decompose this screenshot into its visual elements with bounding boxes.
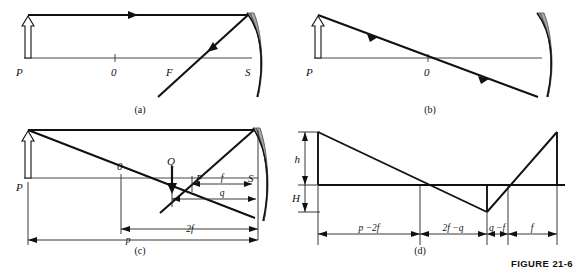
label-point-s-c: S bbox=[248, 172, 254, 184]
panel-a: P 0 F S (a) bbox=[15, 11, 262, 116]
ray-descending-d bbox=[318, 132, 487, 212]
object-arrow-b bbox=[312, 16, 324, 58]
dim-p2f-arrow-right-d bbox=[411, 231, 420, 237]
label-point-o-b: 0 bbox=[424, 66, 430, 78]
dim-p-arrow-right-c bbox=[249, 237, 258, 243]
dim-p2f-arrow-left-d bbox=[318, 231, 327, 237]
panel-b: P 0 (b) bbox=[305, 13, 552, 116]
label-point-o-a: 0 bbox=[111, 66, 117, 78]
dim-h-arrow-top-d bbox=[302, 132, 308, 141]
label-point-p-b: P bbox=[305, 66, 313, 78]
label-point-p-c: P bbox=[15, 181, 23, 193]
label-dim-p-minus-2f-d: p −2f bbox=[358, 223, 381, 233]
label-point-o-c: 0 bbox=[117, 160, 123, 172]
label-height-h-d: h bbox=[295, 153, 301, 165]
dim-q-arrow-right-c bbox=[248, 196, 256, 202]
panel-label-b: (b) bbox=[424, 104, 436, 116]
label-dim-p-c: p bbox=[125, 235, 131, 245]
ray-ascending-d bbox=[487, 132, 557, 212]
center-ray-b bbox=[318, 15, 538, 97]
dim-2fq-arrow-left-d bbox=[420, 231, 429, 237]
reflected-ray-a bbox=[158, 15, 248, 97]
figure-caption: FIGURE 21-6 bbox=[511, 258, 573, 269]
label-point-s-a: S bbox=[245, 66, 251, 78]
object-arrow-c bbox=[22, 131, 34, 178]
label-dim-f-d: f bbox=[531, 223, 535, 233]
mirror-arc-b bbox=[537, 13, 551, 97]
panel-label-c: (c) bbox=[134, 245, 145, 257]
dim-h-arrow-bottom-d bbox=[302, 176, 308, 185]
dim-2f-arrow-left-c bbox=[121, 226, 130, 232]
object-arrow-a bbox=[22, 16, 34, 58]
dim-p-arrow-left-c bbox=[28, 237, 37, 243]
mirror-arc-c bbox=[253, 128, 267, 221]
label-point-f-c: F bbox=[195, 172, 203, 184]
panel-d: h H p −2f 2f −q q −f f (d) bbox=[291, 132, 565, 257]
dim-2f-arrow-right-c bbox=[249, 226, 258, 232]
label-point-q-c: Q bbox=[167, 155, 175, 167]
label-point-f-a: F bbox=[165, 66, 173, 78]
dim-2fq-arrow-right-d bbox=[478, 231, 487, 237]
dim-H-arrow-bottom-d bbox=[302, 203, 308, 212]
incident-ray-arrowhead-a bbox=[128, 11, 138, 19]
label-point-p-a: P bbox=[15, 66, 23, 78]
label-height-H-d: H bbox=[291, 192, 301, 204]
label-dim-2f-minus-q-d: 2f −q bbox=[443, 223, 464, 233]
dim-f-arrow-left-d bbox=[508, 231, 517, 237]
panel-c: P 0 Q F S f q 2f p (c) bbox=[15, 128, 268, 257]
dim-f-arrow-right-d bbox=[548, 231, 557, 237]
panel-label-d: (d) bbox=[414, 245, 426, 257]
reflected-ray-c bbox=[160, 130, 254, 213]
label-dim-q-c: q bbox=[220, 188, 225, 198]
figure-21-6: P 0 F S (a) P 0 (b) bbox=[0, 0, 580, 274]
panel-label-a: (a) bbox=[134, 104, 145, 116]
mirror-arc-a bbox=[247, 13, 261, 97]
label-dim-q-minus-f-d: q −f bbox=[489, 223, 507, 233]
figure-canvas: P 0 F S (a) P 0 (b) bbox=[0, 0, 580, 274]
